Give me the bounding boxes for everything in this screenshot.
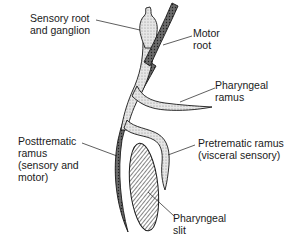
label-line: Motor	[193, 27, 220, 39]
leader-sensory-root	[96, 20, 140, 30]
label-line: Pharyngeal	[215, 79, 268, 91]
label-line: Posttrematic	[18, 135, 79, 147]
label-line: motor)	[18, 171, 79, 183]
label-line: Sensory root	[30, 12, 90, 24]
leader-pretrematic-ramus	[168, 145, 195, 155]
label-pharyngeal-ramus: Pharyngeal ramus	[215, 79, 268, 103]
nerve-diagram	[0, 0, 302, 249]
label-motor-root: Motor root	[193, 27, 220, 51]
label-line: and ganglion	[30, 24, 90, 36]
leader-pharyngeal-ramus	[180, 88, 215, 102]
label-line: Pretrematic ramus	[198, 137, 284, 149]
pharyngeal-slit-shape	[125, 142, 162, 232]
label-pharyngeal-slit: Pharyngeal slit	[173, 212, 226, 236]
label-line: (visceral sensory)	[198, 149, 284, 161]
label-posttrematic-ramus: Posttrematic ramus (sensory and motor)	[18, 135, 79, 183]
label-pretrematic-ramus: Pretrematic ramus (visceral sensory)	[198, 137, 284, 161]
label-line: ramus	[18, 147, 79, 159]
label-sensory-root: Sensory root and ganglion	[30, 12, 90, 36]
leader-motor-root	[163, 36, 192, 45]
label-line: root	[193, 39, 220, 51]
pharyngeal-ramus-shape	[132, 86, 212, 110]
label-line: Pharyngeal	[173, 212, 226, 224]
leader-posttrematic-ramus	[82, 143, 117, 156]
label-line: (sensory and	[18, 159, 79, 171]
label-line: ramus	[215, 91, 268, 103]
label-line: slit	[173, 224, 226, 236]
